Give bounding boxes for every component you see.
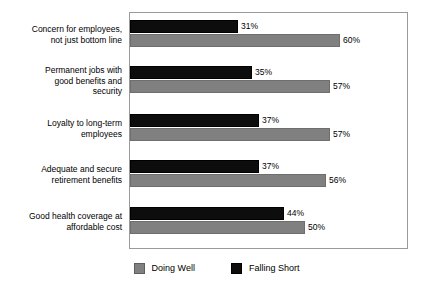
bar-group: 37% 57%: [130, 112, 433, 156]
chart-row: Good health coverage at affordable cost …: [0, 205, 433, 249]
bar-value-label: 35%: [255, 67, 272, 78]
category-label: Concern for employees, not just bottom l…: [0, 24, 122, 45]
bar-fill: [130, 20, 238, 33]
bar-value-label: 37%: [262, 161, 279, 172]
bar-value-label: 56%: [329, 175, 346, 186]
category-label: Loyalty to long-term employees: [0, 118, 122, 139]
bar-fill: [130, 174, 326, 187]
bar-value-label: 50%: [308, 222, 325, 233]
legend-item-falling-short: Falling Short: [231, 263, 300, 274]
chart-legend: Doing Well Falling Short: [0, 259, 433, 277]
bar-fill: [130, 80, 330, 93]
bar-fill: [130, 221, 305, 234]
bar-fill: [130, 114, 259, 127]
category-label: Good health coverage at affordable cost: [0, 211, 122, 232]
category-label: Adequate and secure retirement benefits: [0, 164, 122, 185]
bar-fill: [130, 34, 340, 47]
bar-value-label: 37%: [262, 115, 279, 126]
legend-label-falling-short: Falling Short: [249, 263, 300, 274]
legend-item-doing-well: Doing Well: [134, 263, 195, 274]
bar-value-label: 57%: [333, 129, 350, 140]
chart-row: Permanent jobs with good benefits and se…: [0, 64, 433, 108]
bar-fill: [130, 207, 284, 220]
bar-fill: [130, 66, 252, 79]
bar-group: 35% 57%: [130, 64, 433, 108]
bar-fill: [130, 128, 330, 141]
bar-fill: [130, 160, 259, 173]
bar-group: 44% 50%: [130, 205, 433, 249]
bar-value-label: 44%: [287, 208, 304, 219]
legend-swatch-falling-short-icon: [231, 263, 242, 274]
legend-swatch-doing-well-icon: [134, 263, 145, 274]
chart-row: Loyalty to long-term employees 37% 57%: [0, 112, 433, 156]
bar-value-label: 31%: [241, 21, 258, 32]
bar-group: 37% 56%: [130, 158, 433, 202]
bar-group: 31% 60%: [130, 18, 433, 62]
bar-value-label: 60%: [343, 35, 360, 46]
category-label: Permanent jobs with good benefits and se…: [0, 65, 122, 97]
chart-row: Adequate and secure retirement benefits …: [0, 158, 433, 202]
legend-label-doing-well: Doing Well: [152, 263, 195, 274]
chart-row: Concern for employees, not just bottom l…: [0, 18, 433, 62]
bar-value-label: 57%: [333, 81, 350, 92]
bar-chart: Concern for employees, not just bottom l…: [0, 0, 433, 286]
